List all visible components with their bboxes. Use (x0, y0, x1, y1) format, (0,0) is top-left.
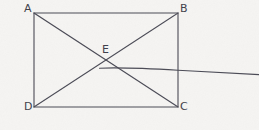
figure-canvas (0, 0, 259, 130)
geometry-figure: A B E D C (0, 0, 259, 130)
vertex-label-b: B (180, 3, 188, 14)
vertex-label-d: D (24, 101, 32, 112)
vertex-label-a: A (24, 3, 32, 14)
vertex-label-e: E (102, 44, 109, 55)
vertex-label-c: C (180, 101, 188, 112)
